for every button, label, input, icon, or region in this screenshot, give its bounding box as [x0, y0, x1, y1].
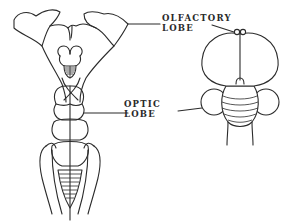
optic-leader-right [178, 108, 202, 111]
optic-label-line2: LOBE [124, 109, 161, 119]
left-olfactory-lobe-right [84, 12, 128, 46]
olfactory-label-line1: OLFACTORY [162, 13, 232, 23]
optic-label-line1: OPTIC [124, 99, 161, 109]
left-brain [14, 10, 128, 220]
olfactory-label-line2: LOBE [162, 23, 232, 33]
optic-lobe-label: OPTIC LOBE [124, 99, 161, 119]
olfactory-lobe-label: OLFACTORY LOBE [162, 13, 232, 33]
right-olfactory-lobe-right [240, 29, 245, 34]
right-brain [201, 29, 279, 145]
right-olfactory-lobe-left [234, 29, 239, 34]
brain-comparison-diagram: OLFACTORY LOBE OPTIC LOBE [0, 0, 290, 221]
left-olfactory-lobe-left [14, 10, 60, 46]
